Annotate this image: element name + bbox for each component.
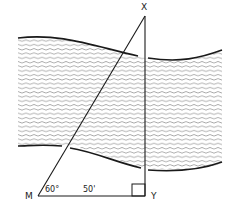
- point-label-y: Y: [151, 192, 157, 201]
- point-label-x: X: [141, 3, 147, 12]
- diagram-canvas: [0, 0, 231, 203]
- point-label-m: M: [25, 192, 33, 201]
- right-angle-marker: [132, 184, 145, 196]
- distance-label-my: 50': [83, 186, 95, 194]
- angle-label-m: 60°: [45, 186, 59, 194]
- river-bottom-bank: [18, 145, 62, 146]
- river: [18, 30, 223, 175]
